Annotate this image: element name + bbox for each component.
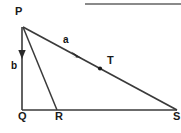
geometry-figure: P Q R S T a b [0, 0, 181, 133]
vector-b-arrowhead-icon [18, 50, 25, 59]
vertex-label-r: R [55, 111, 63, 122]
figure-canvas [0, 0, 181, 133]
vertex-label-p: P [15, 6, 22, 17]
vertex-label-q: Q [18, 111, 27, 122]
segment-pr [23, 27, 57, 110]
point-t-marker [98, 66, 102, 70]
vertex-label-s: S [173, 111, 180, 122]
vector-label-a: a [63, 35, 69, 45]
vector-a-arrowhead-icon [71, 52, 82, 59]
vector-label-b: b [11, 61, 17, 71]
vertex-label-t: T [107, 55, 114, 66]
